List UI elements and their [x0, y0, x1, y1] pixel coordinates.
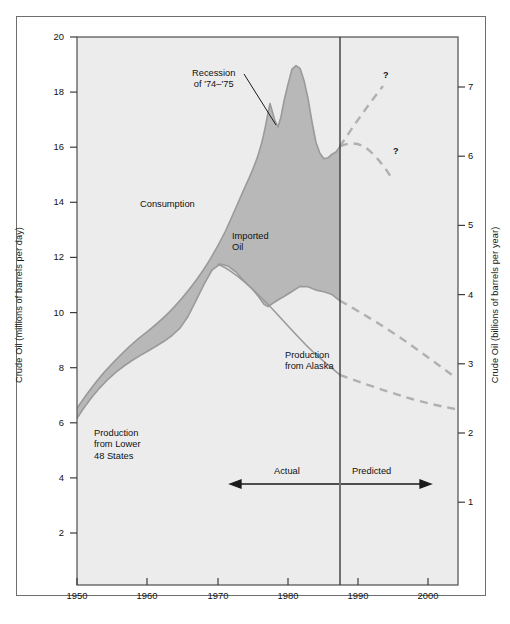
- annotation-alaska-line1: Production: [285, 350, 334, 361]
- annotation-question-low: ?: [393, 146, 399, 156]
- x-tick-1950: 1950: [57, 590, 97, 601]
- y-tick-left-4: 4: [44, 472, 64, 483]
- annotation-alaska: Production from Alaska: [285, 350, 334, 373]
- y-tick-left-14: 14: [44, 196, 64, 207]
- y-tick-right-2: 2: [468, 427, 490, 438]
- y-tick-left-8: 8: [44, 362, 64, 373]
- y-tick-right-4: 4: [468, 289, 490, 300]
- y-tick-right-7: 7: [468, 81, 490, 92]
- annotation-lower-48-line2: from Lower: [94, 439, 141, 450]
- x-tick-1980: 1980: [268, 590, 308, 601]
- x-tick-2000: 2000: [408, 590, 448, 601]
- annotation-imported-oil-line2: Oil: [232, 242, 269, 253]
- annotation-recession-line2: of '74–'75: [192, 79, 235, 90]
- y-axis-left-title: Crude Oil (millions of barrels per day): [14, 220, 24, 390]
- y-tick-left-12: 12: [44, 251, 64, 262]
- annotation-lower-48-line1: Production: [94, 428, 141, 439]
- y-axis-right-ticks: [458, 87, 465, 502]
- y-tick-right-3: 3: [468, 358, 490, 369]
- y-axis-left-ticks: [70, 37, 77, 533]
- figure-container: Crude Oil (millions of barrels per day) …: [0, 0, 510, 624]
- y-tick-right-5: 5: [468, 219, 490, 230]
- x-tick-1970: 1970: [198, 590, 238, 601]
- annotation-recession: Recession of '74–'75: [192, 68, 235, 91]
- y-tick-right-1: 1: [468, 496, 490, 507]
- annotation-imported-oil: Imported Oil: [232, 231, 269, 254]
- y-tick-left-2: 2: [44, 527, 64, 538]
- x-tick-1960: 1960: [127, 590, 167, 601]
- annotation-imported-oil-line1: Imported: [232, 231, 269, 242]
- annotation-lower-48-line3: 48 States: [94, 451, 141, 462]
- x-tick-1990: 1990: [338, 590, 378, 601]
- y-tick-left-20: 20: [44, 31, 64, 42]
- y-tick-left-6: 6: [44, 417, 64, 428]
- y-axis-right-title: Crude Oil (billions of barrels per year): [490, 220, 500, 390]
- annotation-recession-line1: Recession: [192, 68, 235, 79]
- label-actual: Actual: [274, 466, 300, 476]
- annotation-lower-48: Production from Lower 48 States: [94, 428, 141, 462]
- annotation-alaska-line2: from Alaska: [285, 361, 334, 372]
- annotation-consumption: Consumption: [140, 199, 195, 210]
- chart-plot: [0, 0, 510, 624]
- annotation-question-high: ?: [383, 70, 389, 80]
- y-tick-left-16: 16: [44, 141, 64, 152]
- label-predicted: Predicted: [352, 466, 391, 476]
- y-tick-left-10: 10: [44, 307, 64, 318]
- y-tick-right-6: 6: [468, 150, 490, 161]
- y-tick-left-18: 18: [44, 86, 64, 97]
